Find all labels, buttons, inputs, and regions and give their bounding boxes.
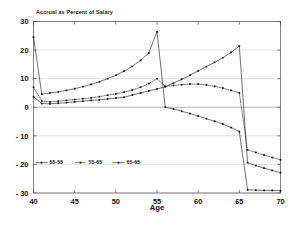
data-point — [74, 99, 76, 101]
data-point — [214, 120, 216, 122]
data-point — [164, 86, 166, 88]
data-point — [33, 36, 35, 38]
data-point — [181, 110, 183, 112]
data-point — [74, 88, 76, 90]
data-point — [107, 98, 109, 100]
data-point — [82, 86, 84, 88]
data-point — [41, 100, 43, 102]
data-point — [66, 90, 68, 92]
data-point — [99, 96, 101, 98]
data-point — [66, 100, 68, 102]
data-point — [247, 149, 249, 151]
data-point — [263, 190, 265, 192]
data-point — [222, 123, 224, 125]
x-tick-label-70: 70 — [276, 197, 284, 206]
data-point — [107, 94, 109, 96]
data-point — [206, 118, 208, 120]
data-point — [238, 45, 240, 47]
legend-marker-55-65 — [80, 162, 82, 164]
data-point — [115, 97, 117, 99]
data-point — [280, 172, 282, 174]
data-point — [238, 92, 240, 94]
data-point — [255, 165, 257, 167]
y-tick-label-0: 0 — [24, 103, 28, 112]
data-point — [57, 91, 59, 93]
y-tick-label-20: 20 — [20, 46, 28, 55]
data-point — [148, 52, 150, 54]
data-point — [222, 87, 224, 89]
data-point — [238, 131, 240, 133]
data-point — [57, 100, 59, 102]
data-point — [82, 100, 84, 102]
data-point — [173, 82, 175, 84]
data-point — [214, 86, 216, 88]
data-point — [66, 102, 68, 104]
data-point — [33, 96, 35, 98]
x-tick-label-65: 65 — [235, 197, 243, 206]
y-tick-label--30: - 30 — [16, 189, 29, 198]
y-tick-label-30: 30 — [20, 17, 28, 26]
chart-title: Accrual as Percent of Salary — [36, 9, 113, 15]
data-point — [131, 94, 133, 96]
data-point — [33, 86, 35, 88]
x-axis-title: Age — [150, 203, 164, 212]
data-point — [230, 52, 232, 54]
y-tick-label--20: - 20 — [16, 160, 29, 169]
data-point — [214, 62, 216, 64]
data-point — [197, 70, 199, 72]
data-point — [189, 74, 191, 76]
y-tick-label-10: 10 — [20, 74, 28, 83]
data-point — [280, 159, 282, 161]
data-point — [131, 89, 133, 91]
data-point — [90, 100, 92, 102]
chart-background — [0, 0, 296, 226]
x-tick-label-60: 60 — [194, 197, 202, 206]
legend-marker-55-55 — [41, 162, 43, 164]
data-point — [49, 92, 51, 94]
data-point — [222, 57, 224, 59]
data-point — [271, 170, 273, 172]
data-point — [263, 154, 265, 156]
data-point — [263, 167, 265, 169]
data-point — [173, 108, 175, 110]
data-point — [90, 97, 92, 99]
data-point — [247, 162, 249, 164]
data-point — [57, 102, 59, 104]
data-point — [148, 83, 150, 85]
chart-figure: Accrual as Percent of Salary 3020100- 10… — [0, 0, 296, 226]
accrual-line-chart: Accrual as Percent of Salary 3020100- 10… — [0, 0, 296, 226]
data-point — [140, 60, 142, 62]
data-point — [99, 99, 101, 101]
data-point — [115, 74, 117, 76]
data-point — [156, 78, 158, 80]
data-point — [181, 78, 183, 80]
data-point — [197, 115, 199, 117]
x-tick-label-45: 45 — [71, 197, 79, 206]
data-point — [197, 83, 199, 85]
data-point — [230, 127, 232, 129]
data-point — [164, 106, 166, 108]
data-point — [280, 190, 282, 192]
data-point — [123, 96, 125, 98]
data-point — [189, 83, 191, 85]
x-tick-label-50: 50 — [112, 197, 120, 206]
legend-label-55-55: 55-55 — [50, 159, 64, 165]
data-point — [255, 152, 257, 154]
data-point — [131, 66, 133, 68]
data-point — [99, 81, 101, 83]
data-point — [74, 101, 76, 103]
data-point — [123, 70, 125, 72]
data-point — [255, 189, 257, 191]
data-point — [49, 103, 51, 105]
data-point — [189, 113, 191, 115]
y-tick-label--10: - 10 — [16, 132, 29, 141]
data-point — [181, 84, 183, 86]
data-point — [247, 189, 249, 191]
data-point — [156, 31, 158, 33]
data-point — [140, 86, 142, 88]
legend-label-55-65: 55-65 — [89, 159, 103, 165]
data-point — [148, 90, 150, 92]
data-point — [140, 92, 142, 94]
data-point — [107, 78, 109, 80]
data-point — [206, 84, 208, 86]
